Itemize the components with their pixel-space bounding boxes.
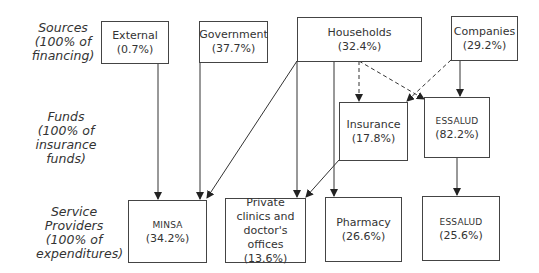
node-percent: (0.7%) [117, 43, 154, 57]
node-percent: (82.2%) [435, 128, 479, 142]
node-name: MINSA [152, 218, 182, 232]
node-name: ESSALUD [440, 215, 483, 229]
source-households: Households (32.4%) [297, 17, 422, 62]
node-name: Private clinics and doctor's offices [230, 196, 301, 252]
node-name: External [112, 29, 158, 43]
node-name: Households [328, 26, 392, 40]
node-percent: (26.6%) [342, 230, 386, 244]
node-percent: (32.4%) [338, 40, 382, 54]
fund-insurance: Insurance (17.8%) [339, 102, 408, 161]
source-government: Government (37.7%) [199, 21, 268, 63]
provider-pharmacy: Pharmacy (26.6%) [325, 197, 402, 262]
node-name: ESSALUD [436, 114, 479, 128]
node-percent: (37.7%) [212, 42, 256, 56]
fund-essalud: ESSALUD (82.2%) [424, 97, 490, 158]
edge-households-essalud-fund [359, 61, 424, 99]
node-percent: (17.8%) [352, 132, 396, 146]
edge-companies-insurance [407, 60, 451, 101]
provider-essalud: ESSALUD (25.6%) [422, 196, 500, 261]
source-companies: Companies (29.2%) [451, 16, 518, 61]
node-name: Companies [454, 25, 515, 39]
edge-households-minsa [207, 61, 297, 198]
node-name: Insurance [347, 118, 401, 132]
node-percent: (29.2%) [463, 39, 507, 53]
node-percent: (34.2%) [146, 232, 190, 246]
node-percent: (25.6%) [439, 229, 483, 243]
node-name: Pharmacy [336, 216, 391, 230]
node-percent: (13.6%) [244, 252, 288, 266]
source-external: External (0.7%) [101, 21, 169, 64]
node-name: Government [199, 28, 268, 42]
provider-private-clinics: Private clinics and doctor's offices (13… [225, 198, 306, 263]
provider-minsa: MINSA (34.2%) [128, 200, 207, 263]
